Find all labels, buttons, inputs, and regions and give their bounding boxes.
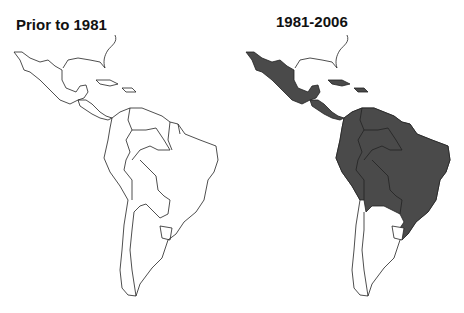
map-prior-1981 <box>0 0 232 313</box>
map-1981-2006 <box>232 0 464 313</box>
